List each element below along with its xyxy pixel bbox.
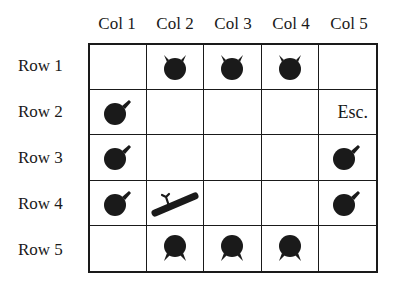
row-header: Row 3 [18, 148, 80, 168]
grid-cell-r4-c3[interactable] [204, 181, 261, 226]
escape-label: Esc. [338, 102, 369, 123]
grid-cell-r1-c4[interactable] [262, 45, 319, 90]
grid-cell-r5-c3[interactable] [204, 226, 261, 271]
grid-cell-r5-c1[interactable] [90, 226, 147, 271]
column-header: Col 2 [146, 14, 204, 34]
creature-up-icon [275, 232, 305, 264]
row-header: Row 4 [18, 194, 80, 214]
creature-down-icon [160, 52, 190, 82]
grid-cell-r3-c2[interactable] [147, 135, 204, 180]
creature-right-icon [102, 97, 134, 127]
grid-cell-r1-c5[interactable] [319, 45, 376, 90]
grid-cell-r3-c5[interactable] [319, 135, 376, 180]
grid-cell-r2-c1[interactable] [90, 90, 147, 135]
grid-cell-r4-c2[interactable] [147, 181, 204, 226]
grid-cell-r5-c5[interactable] [319, 226, 376, 271]
row-header: Row 2 [18, 102, 80, 122]
creature-right-icon [102, 142, 134, 172]
grid-cell-r3-c1[interactable] [90, 135, 147, 180]
grid-cell-r5-c2[interactable] [147, 226, 204, 271]
grid-cell-r4-c5[interactable] [319, 181, 376, 226]
creature-down-icon [217, 52, 247, 82]
row-header: Row 5 [18, 240, 80, 260]
grid-cell-r2-c2[interactable] [147, 90, 204, 135]
grid-cell-r4-c1[interactable] [90, 181, 147, 226]
creature-right-icon [331, 188, 363, 218]
row-header: Row 1 [18, 56, 80, 76]
grid-cell-r2-c5[interactable]: Esc. [319, 90, 376, 135]
creature-right-icon [102, 188, 134, 218]
grid-cell-r5-c4[interactable] [262, 226, 319, 271]
player-ship-icon [149, 186, 201, 220]
creature-right-icon [331, 142, 363, 172]
grid-cell-r3-c4[interactable] [262, 135, 319, 180]
creature-up-icon [217, 232, 247, 264]
creature-down-icon [275, 52, 305, 82]
grid-cell-r1-c1[interactable] [90, 45, 147, 90]
grid-cell-r4-c4[interactable] [262, 181, 319, 226]
creature-up-icon [160, 232, 190, 264]
grid-cell-r3-c3[interactable] [204, 135, 261, 180]
game-grid: Esc. [88, 43, 378, 273]
column-header: Col 4 [262, 14, 320, 34]
grid-cell-r1-c2[interactable] [147, 45, 204, 90]
grid-cell-r1-c3[interactable] [204, 45, 261, 90]
column-header: Col 3 [204, 14, 262, 34]
grid-cell-r2-c4[interactable] [262, 90, 319, 135]
column-header: Col 5 [320, 14, 378, 34]
grid-cell-r2-c3[interactable] [204, 90, 261, 135]
column-header: Col 1 [88, 14, 146, 34]
